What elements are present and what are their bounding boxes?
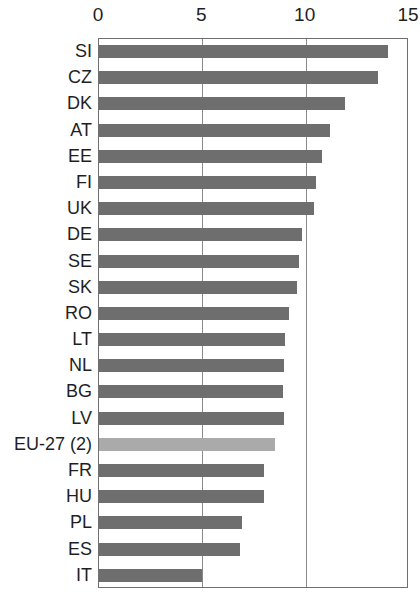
bar (99, 255, 299, 268)
bar (99, 385, 283, 398)
x-axis-tick-label: 10 (294, 4, 315, 26)
category-label: NL (69, 352, 92, 378)
bar-row: ES (0, 536, 420, 562)
category-label: LT (72, 326, 92, 352)
bar (99, 307, 289, 320)
bar (99, 333, 285, 346)
bar (99, 569, 202, 582)
category-label: LV (71, 405, 92, 431)
x-axis-tick-label: 5 (196, 4, 207, 26)
category-label: AT (70, 117, 92, 143)
bar (99, 228, 302, 241)
bar (99, 359, 284, 372)
x-axis-tick-label: 0 (93, 4, 104, 26)
bar-row: SI (0, 38, 420, 64)
category-label: RO (65, 300, 92, 326)
category-label: IT (76, 562, 92, 588)
x-axis-tick-labels: 051015 (0, 0, 420, 38)
bar-row: HU (0, 483, 420, 509)
category-label: PL (70, 509, 92, 535)
bar-row: FI (0, 169, 420, 195)
category-label: EU-27 (2) (14, 431, 92, 457)
bar-row: SE (0, 248, 420, 274)
bar-row: BG (0, 378, 420, 404)
category-label: FR (68, 457, 92, 483)
bar (99, 516, 242, 529)
bar-row: NL (0, 352, 420, 378)
x-axis-tick-label: 15 (397, 4, 418, 26)
bar (99, 150, 322, 163)
bar-row: LT (0, 326, 420, 352)
bar-row: CZ (0, 64, 420, 90)
bar-row: RO (0, 300, 420, 326)
bar (99, 438, 275, 451)
category-label: SE (68, 248, 92, 274)
bar (99, 412, 284, 425)
bar (99, 176, 316, 189)
bar-row: UK (0, 195, 420, 221)
bar-row: FR (0, 457, 420, 483)
bar-row: EU-27 (2) (0, 431, 420, 457)
category-label: FI (76, 169, 92, 195)
bar-row: SK (0, 274, 420, 300)
bar-chart: 051015 SICZDKATEEFIUKDESESKROLTNLBGLVEU-… (0, 0, 420, 605)
bar-rows: SICZDKATEEFIUKDESESKROLTNLBGLVEU-27 (2)F… (0, 38, 420, 588)
category-label: SI (75, 38, 92, 64)
bar (99, 490, 264, 503)
category-label: ES (68, 536, 92, 562)
category-label: EE (68, 143, 92, 169)
bar (99, 97, 345, 110)
bar-row: EE (0, 143, 420, 169)
bar-row: IT (0, 562, 420, 588)
bar (99, 543, 240, 556)
bar (99, 71, 378, 84)
category-label: DK (67, 90, 92, 116)
category-label: DE (67, 221, 92, 247)
bar (99, 124, 330, 137)
bar-row: DK (0, 90, 420, 116)
bar-row: DE (0, 221, 420, 247)
category-label: UK (67, 195, 92, 221)
bar (99, 281, 297, 294)
category-label: CZ (68, 64, 92, 90)
bar (99, 464, 264, 477)
category-label: HU (66, 483, 92, 509)
category-label: BG (66, 378, 92, 404)
bar (99, 45, 388, 58)
bar-row: LV (0, 405, 420, 431)
bar-row: PL (0, 509, 420, 535)
category-label: SK (68, 274, 92, 300)
bar-row: AT (0, 117, 420, 143)
bar (99, 202, 314, 215)
